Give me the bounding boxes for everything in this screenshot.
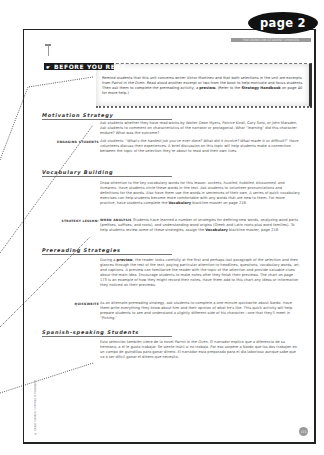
pin-icon <box>45 44 51 57</box>
hand-icon: ☛ <box>46 64 51 70</box>
top-banner: FOCUSING ON STUDENT CHOICES <box>231 38 311 42</box>
strategy-lesson-paragraph: WORD ANALYSIS Students have learned a nu… <box>100 218 300 233</box>
spanish-paragraph: Esta selección también viene de la novel… <box>100 340 300 360</box>
strategy-lesson-label: STRATEGY LESSON: <box>40 219 99 223</box>
strategy-handbook-ref: Strategy Handbook <box>241 86 280 90</box>
prereading-paragraph: During a preview, the reader looks caref… <box>100 258 300 289</box>
vocab-text: blackline master on page 218. <box>191 201 247 205</box>
spanish-text: Esta selección también viene de la novel <box>100 340 175 344</box>
page-tab: page 2 <box>248 12 318 34</box>
quickwrite-paragraph: As an alternate prereading strategy, ask… <box>100 301 300 321</box>
prereading-text: During a <box>100 258 117 262</box>
spanish-heading: Spanish-speaking Students <box>42 329 172 337</box>
prereading-heading: Prereading Strategies <box>42 247 172 255</box>
prereading-text: , the reader looks carefully at the firs… <box>100 258 300 287</box>
book-title: Parrot in the Oven <box>112 81 145 85</box>
intro-text: (Refer to the <box>216 86 241 90</box>
copyright-notice: © GREAT SOURCE. COPYING IS PROHIBITED. <box>34 380 37 435</box>
intro-paragraph: Remind students that this unit concerns … <box>102 76 307 96</box>
vocab-words: sockets, hustled, hobbled, blossomed, <box>208 181 277 185</box>
book-title: Parrot in the Oven <box>175 340 208 344</box>
motivation-heading: Motivation Strategy <box>42 112 172 120</box>
preview-term: preview <box>117 258 133 262</box>
motivation-paragraph: Ask students whether they have read work… <box>100 121 300 136</box>
engaging-students-label: ENGAGING STUDENTS <box>40 140 99 144</box>
section-title-bar: ☛ BEFORE YOU READ <box>44 63 114 70</box>
vocabulary-ref: Vocabulary <box>169 201 192 205</box>
vocabulary-paragraph: Draw attention to the key vocabulary wor… <box>100 181 300 206</box>
vocab-text: Draw attention to the key vocabulary wor… <box>100 181 208 185</box>
vocabulary-ref: Vocabulary <box>205 228 228 232</box>
vocab-text: and <box>277 181 285 185</box>
word-analysis-label: WORD ANALYSIS <box>100 218 132 222</box>
preview-term: preview. <box>199 86 216 90</box>
vocab-word: forearms <box>100 186 116 190</box>
lesson-text: blackline master, page 218. <box>228 228 279 232</box>
engaging-question: Ask students: "What's the hardest job yo… <box>100 139 288 143</box>
page-number: 173 <box>299 427 308 436</box>
section-title: BEFORE YOU READ <box>54 63 126 70</box>
engaging-students-paragraph: Ask students: "What's the hardest job yo… <box>100 139 300 154</box>
vocabulary-heading: Vocabulary Building <box>42 169 172 177</box>
quickwrite-label: QUICKWRITE <box>40 302 99 306</box>
